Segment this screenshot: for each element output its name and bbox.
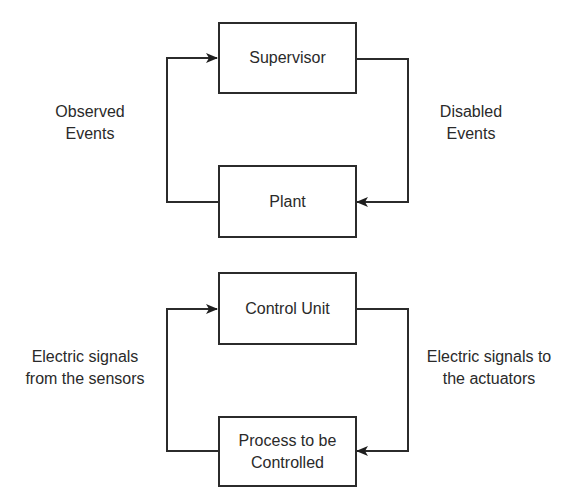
observed-events-line1: Observed: [30, 101, 150, 123]
signals-to-actuators-line2: the actuators: [414, 368, 564, 390]
signals-from-sensors-label: Electric signals from the sensors: [10, 346, 160, 390]
signals-to-actuators-label: Electric signals to the actuators: [414, 346, 564, 390]
signals-from-sensors-line1: Electric signals: [10, 346, 160, 368]
observed-events-line2: Events: [30, 123, 150, 145]
supervisor-block-label: Supervisor: [249, 47, 325, 69]
edge-observed-events: [167, 58, 218, 202]
process-block-line2: Controlled: [239, 452, 337, 474]
disabled-events-label: Disabled Events: [416, 101, 526, 145]
diagram-canvas: Supervisor Plant Observed Events Disable…: [0, 0, 581, 498]
disabled-events-line2: Events: [416, 123, 526, 145]
edge-signals-from-sensors: [167, 309, 218, 451]
observed-events-label: Observed Events: [30, 101, 150, 145]
plant-block-label: Plant: [269, 191, 305, 213]
signals-from-sensors-line2: from the sensors: [10, 368, 160, 390]
supervisor-block: Supervisor: [218, 22, 357, 94]
process-block-line1: Process to be: [239, 430, 337, 452]
process-block: Process to be Controlled: [218, 416, 357, 487]
control-unit-block: Control Unit: [218, 272, 357, 345]
disabled-events-line1: Disabled: [416, 101, 526, 123]
edge-signals-to-actuators: [356, 309, 408, 451]
plant-block: Plant: [218, 165, 357, 238]
edge-disabled-events: [356, 59, 408, 202]
signals-to-actuators-line1: Electric signals to: [414, 346, 564, 368]
control-unit-block-label: Control Unit: [245, 298, 329, 320]
